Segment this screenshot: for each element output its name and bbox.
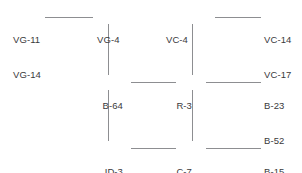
network-diagram: VG-11 VG-14 VG-4 VC-4 VC-14 VC-17 B-64 R… (0, 0, 302, 173)
node-b-15-44: B-15 B-44 (264, 143, 284, 173)
node-vc-4-line1: VC-4 (160, 34, 188, 46)
node-vg-11-14: VG-11 VG-14 (13, 11, 41, 103)
node-vg-11-14-line2: VG-14 (13, 69, 41, 81)
node-b-64: B-64 (85, 77, 123, 135)
edge-r3-b23 (206, 82, 261, 83)
node-b-23-52-line1: B-23 (264, 100, 284, 112)
node-vc-14-17-line1: VC-14 (264, 34, 291, 46)
edge-vc4-vc14 (215, 17, 261, 18)
node-vg-11-14-line1: VG-11 (13, 34, 41, 46)
edge-c7-b15 (206, 148, 261, 149)
node-vc-4: VC-4 (160, 11, 188, 69)
edge-vc4-r3 (192, 24, 193, 75)
node-c-7: C-7 (164, 143, 192, 173)
node-id-3-line1: ID-3 (85, 166, 123, 173)
node-id-3: ID-3 (85, 143, 123, 173)
node-r-3: R-3 (164, 77, 192, 135)
node-c-7-line1: C-7 (164, 166, 192, 173)
node-b-15-44-line1: B-15 (264, 166, 284, 173)
node-r-3-line1: R-3 (164, 100, 192, 112)
node-b-64-line1: B-64 (85, 100, 123, 112)
edge-vg11-vg4 (45, 17, 93, 18)
edge-r3-c7 (192, 90, 193, 141)
node-vg-4-line1: VG-4 (97, 34, 120, 46)
node-vg-4: VG-4 (97, 11, 120, 69)
